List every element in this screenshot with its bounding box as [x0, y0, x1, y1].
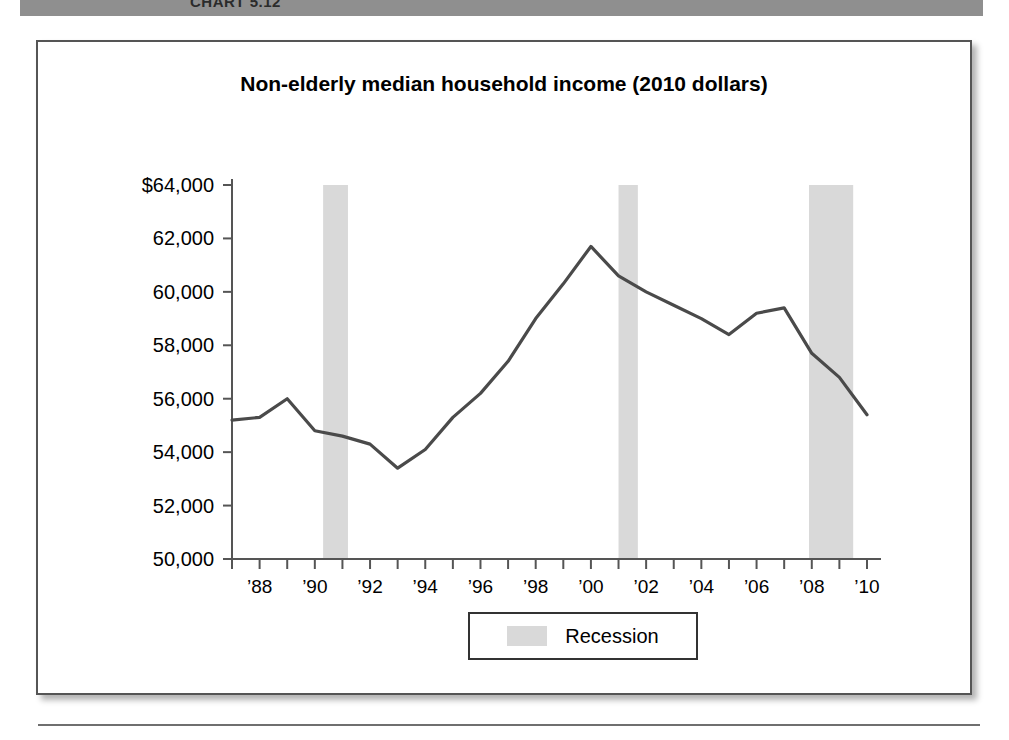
x-axis-tick-label: ’94 [413, 576, 439, 597]
y-axis-tick-label: 54,000 [153, 441, 214, 463]
x-axis-tick-label: ’00 [578, 576, 603, 597]
footer-divider [38, 724, 980, 726]
recession-band [619, 185, 638, 559]
x-axis-tick-label: ’88 [247, 576, 272, 597]
recession-band [323, 185, 348, 559]
y-axis-tick-label: 58,000 [153, 334, 214, 356]
line-chart-plot: $64,00062,00060,00058,00056,00054,00052,… [38, 42, 970, 693]
x-axis-tick-label: ’90 [302, 576, 327, 597]
x-axis-tick-label: ’10 [854, 576, 879, 597]
recession-swatch-icon [507, 626, 547, 646]
page-header-label: CHART 5.12 [190, 0, 281, 10]
x-axis-tick-label: ’92 [357, 576, 382, 597]
page-header-bar: CHART 5.12 [20, 0, 983, 16]
x-axis-tick-label: ’98 [523, 576, 548, 597]
recession-bands-group [323, 185, 853, 559]
x-axis-tick-label: ’06 [744, 576, 769, 597]
x-axis-tick-label: ’96 [468, 576, 493, 597]
x-axis-group: ’88’90’92’94’96’98’00’02’04’06’08’10 [232, 559, 881, 597]
x-axis-tick-label: ’02 [633, 576, 658, 597]
y-axis-tick-label: 60,000 [153, 281, 214, 303]
chart-legend: Recession [468, 612, 698, 660]
y-axis-tick-label: 56,000 [153, 388, 214, 410]
y-axis-tick-label: 52,000 [153, 495, 214, 517]
y-axis-tick-label: $64,000 [142, 174, 214, 196]
y-axis-tick-label: 50,000 [153, 548, 214, 570]
x-axis-tick-label: ’08 [799, 576, 824, 597]
y-axis-tick-label: 62,000 [153, 227, 214, 249]
figure-frame: Non-elderly median household income (201… [36, 40, 972, 695]
x-axis-tick-label: ’04 [689, 576, 715, 597]
y-axis-group: $64,00062,00060,00058,00056,00054,00052,… [142, 174, 232, 570]
legend-item-label: Recession [565, 625, 658, 648]
